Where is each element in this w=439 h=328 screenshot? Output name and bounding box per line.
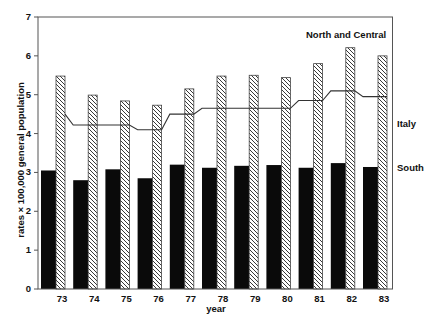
label-south: South <box>397 162 424 173</box>
chart-canvas <box>0 0 439 328</box>
bar-south-79 <box>234 166 249 289</box>
x-tick-label: 74 <box>84 293 104 304</box>
bar-series-group <box>41 48 387 289</box>
x-tick-label: 77 <box>181 293 201 304</box>
label-italy: Italy <box>397 118 416 129</box>
y-tick-label: 7 <box>17 11 31 22</box>
bar-south-82 <box>331 163 346 289</box>
bar-north-central-74 <box>88 95 97 289</box>
bar-north-central-83 <box>378 56 387 289</box>
x-tick-label: 73 <box>52 293 72 304</box>
x-axis-label: year <box>206 303 226 314</box>
bar-south-73 <box>41 170 56 289</box>
bar-north-central-79 <box>249 75 258 289</box>
bar-north-central-82 <box>346 48 355 289</box>
y-tick-marks <box>34 17 38 289</box>
bar-south-75 <box>105 169 120 289</box>
bar-south-74 <box>73 180 88 289</box>
bar-north-central-80 <box>281 78 290 289</box>
bar-north-central-81 <box>314 64 323 289</box>
bar-north-central-77 <box>185 89 194 289</box>
y-tick-label: 0 <box>17 283 31 294</box>
y-tick-label: 6 <box>17 50 31 61</box>
x-tick-label: 81 <box>310 293 330 304</box>
bar-north-central-76 <box>153 105 162 289</box>
label-north-and-central: North and Central <box>306 29 386 40</box>
x-tick-label: 76 <box>149 293 169 304</box>
bar-south-76 <box>138 178 153 289</box>
bar-north-central-75 <box>120 101 129 289</box>
bar-south-77 <box>170 165 185 289</box>
x-tick-label: 80 <box>277 293 297 304</box>
x-tick-label: 82 <box>342 293 362 304</box>
x-tick-label: 75 <box>116 293 136 304</box>
bar-south-83 <box>363 167 378 289</box>
bar-south-78 <box>202 168 217 289</box>
bar-south-81 <box>299 168 314 289</box>
x-tick-label: 83 <box>374 293 394 304</box>
y-axis-label: rates × 100,000 general population <box>15 82 26 238</box>
y-tick-label: 1 <box>17 244 31 255</box>
x-tick-label: 79 <box>245 293 265 304</box>
bar-south-80 <box>266 165 281 289</box>
bar-north-central-73 <box>56 76 65 289</box>
